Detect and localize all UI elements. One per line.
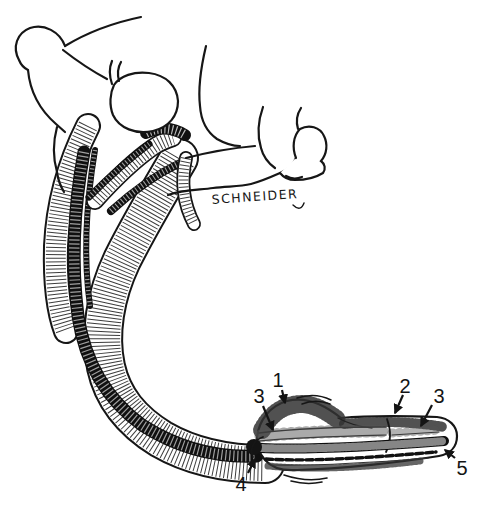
callout-1-label: 1 <box>272 369 283 391</box>
anatomical-figure: SCHNEIDER 3 1 2 3 5 4 <box>0 0 489 507</box>
callout-2-label: 2 <box>399 375 410 397</box>
illustration-canvas: SCHNEIDER 3 1 2 3 5 4 <box>0 0 489 507</box>
mesh-ticks-right <box>392 430 440 433</box>
callout-3-left-label: 3 <box>253 385 264 407</box>
callout-5-label: 5 <box>456 457 467 479</box>
mesh-ticks <box>261 431 386 436</box>
callout-3-right-label: 3 <box>433 385 444 407</box>
callout-4-label: 4 <box>235 473 246 495</box>
tympanic-bulla <box>110 73 178 133</box>
muscle-knot <box>246 439 262 455</box>
